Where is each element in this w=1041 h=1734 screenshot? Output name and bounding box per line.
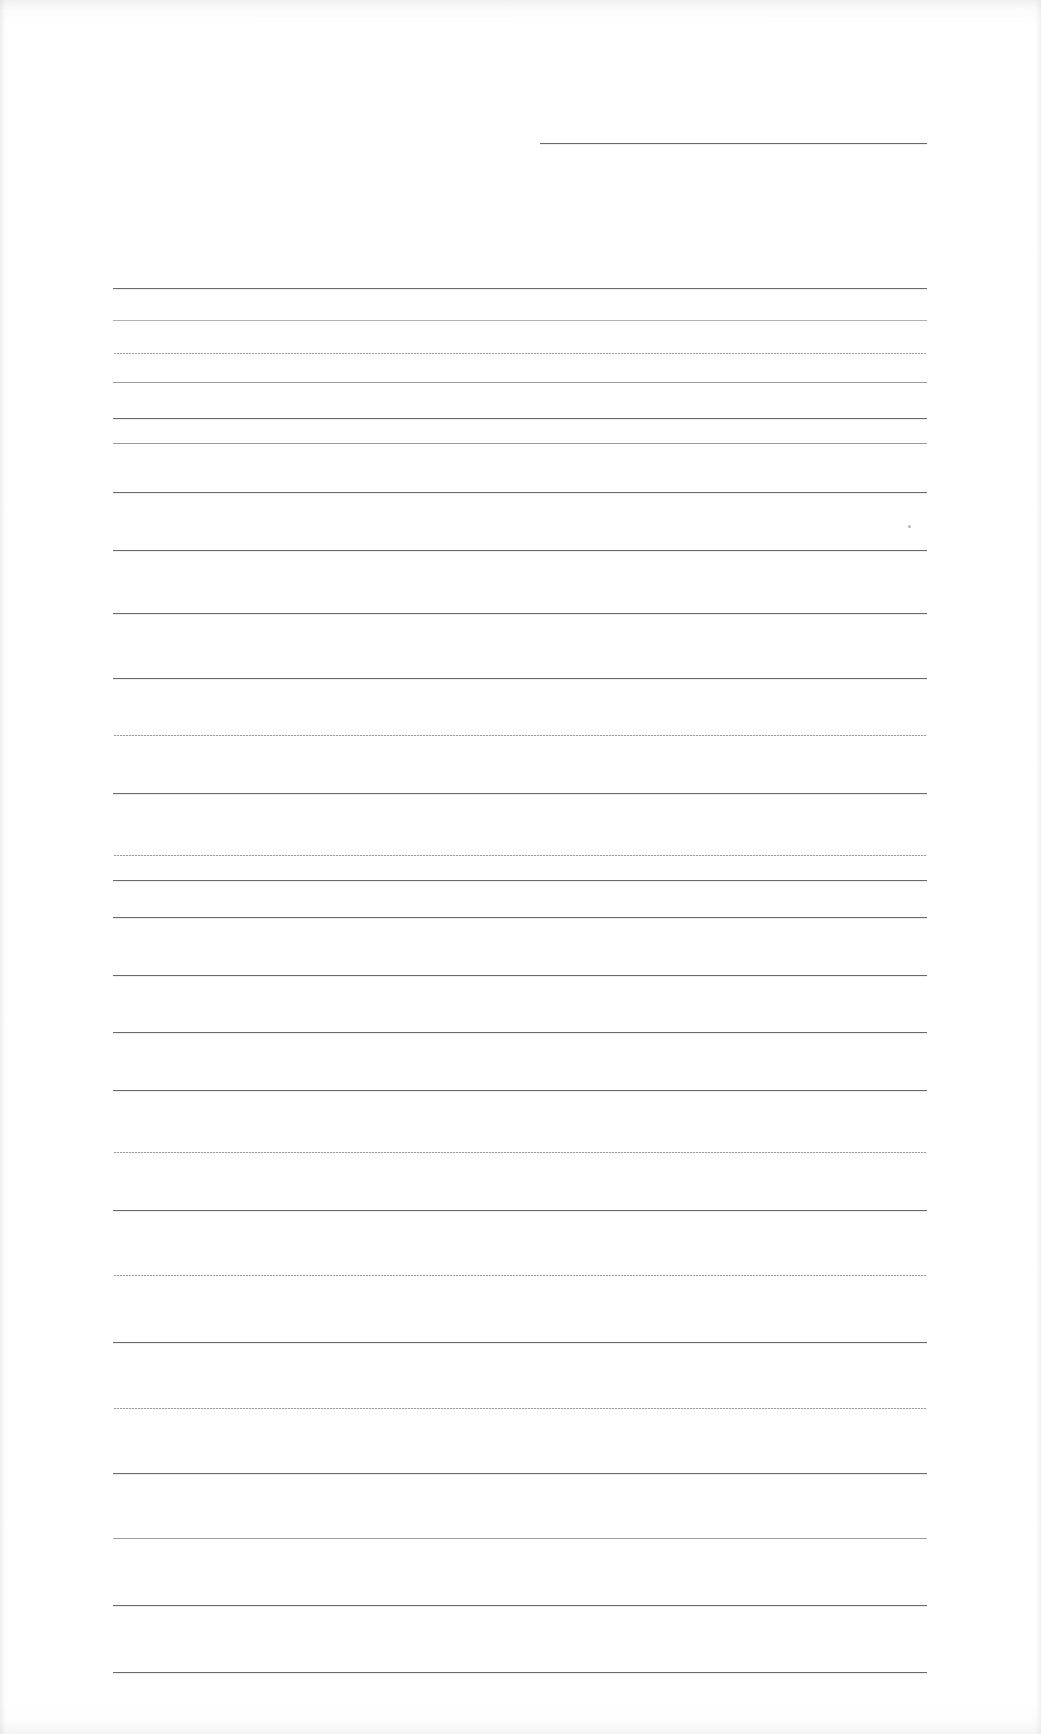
header-rule [540, 143, 927, 144]
scanned-page [0, 0, 1041, 1734]
scan-artifact-top [0, 0, 1041, 26]
rule-27 [113, 1672, 927, 1673]
scan-artifact-right [1032, 0, 1041, 1734]
scan-artifact-left [0, 0, 9, 1734]
page-content-region [113, 288, 927, 1672]
scan-artifact-bottom [0, 1704, 1041, 1734]
